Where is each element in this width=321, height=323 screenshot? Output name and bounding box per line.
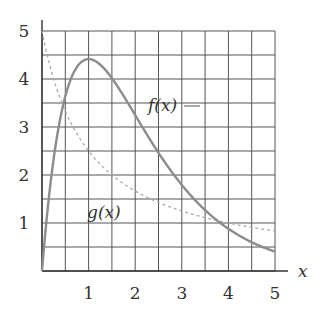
axes xyxy=(42,20,288,271)
g-label: g(x) xyxy=(87,202,121,222)
function-plot: 1234512345 f(x) g(x) x xyxy=(0,0,321,323)
y-tick-label: 3 xyxy=(19,117,30,137)
f-label: f(x) xyxy=(146,95,177,115)
tick-labels: 1234512345 xyxy=(19,21,281,303)
x-axis-label: x xyxy=(298,261,308,281)
x-tick-label: 5 xyxy=(270,283,281,303)
x-tick-label: 2 xyxy=(130,283,141,303)
y-tick-label: 1 xyxy=(19,213,30,233)
x-tick-label: 1 xyxy=(83,283,94,303)
y-tick-label: 4 xyxy=(19,69,30,89)
x-tick-label: 4 xyxy=(223,283,234,303)
x-tick-label: 3 xyxy=(176,283,187,303)
y-tick-label: 2 xyxy=(19,165,30,185)
y-tick-label: 5 xyxy=(19,21,30,41)
